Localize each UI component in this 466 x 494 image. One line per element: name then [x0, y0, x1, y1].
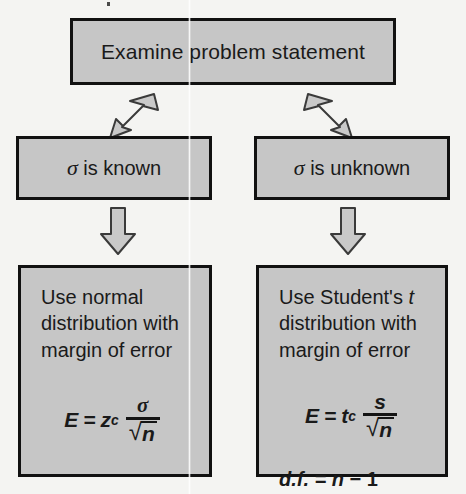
student-body-text: Use Student's t distribution with margin…: [259, 284, 445, 363]
student-line-1-plain: Use Student's: [279, 286, 408, 308]
sigma-unknown-text: σ is unknown: [294, 155, 410, 181]
sigma-symbol: σ: [67, 155, 78, 180]
normal-line-2: distribution with: [41, 310, 209, 336]
arrow-sigma-unknown-to-student-icon: [324, 206, 372, 258]
formula-t-denominator: √n: [363, 416, 397, 440]
sigma-unknown-label: is unknown: [305, 157, 411, 179]
student-line-2: distribution with: [279, 310, 445, 336]
formula-z-equals: =: [83, 408, 95, 432]
arrow-examine-to-sigma-known-icon: [96, 90, 162, 142]
formula-t-fraction: s √n: [363, 391, 397, 440]
square-root-icon: √n: [366, 417, 394, 440]
arrow-examine-to-sigma-unknown-icon: [300, 90, 366, 142]
formula-z-coefficient: z: [101, 408, 112, 432]
node-sigma-known: σ is known: [16, 136, 212, 200]
df-label: d.f.: [279, 468, 309, 490]
formula-z-numerator: σ: [134, 395, 151, 417]
formula-margin-of-error-t: E = tc s √n: [305, 391, 397, 440]
formula-t-equals: =: [324, 404, 336, 428]
flowchart-canvas: Examine problem statement σ is known σ i…: [0, 0, 466, 494]
formula-t-subscript: c: [348, 408, 356, 424]
scan-speck: [107, 2, 110, 6]
node-sigma-unknown: σ is unknown: [254, 136, 450, 200]
formula-z-fraction: σ √n: [126, 395, 160, 444]
normal-body-text: Use normal distribution with margin of e…: [21, 284, 209, 363]
df-equals: =: [315, 468, 327, 490]
formula-t-radicand: n: [378, 417, 394, 440]
df-minus: −: [350, 468, 362, 490]
student-line-3: margin of error: [279, 337, 445, 363]
formula-z-denominator: √n: [126, 420, 160, 444]
formula-t-numerator: s: [371, 391, 389, 413]
formula-t-lhs: E: [305, 404, 319, 428]
degrees-of-freedom-line: d.f. = n − 1: [259, 468, 445, 491]
normal-line-1: Use normal: [41, 284, 209, 310]
node-examine-problem-statement: Examine problem statement: [70, 18, 396, 85]
df-value: 1: [367, 468, 378, 490]
formula-z-subscript: c: [111, 412, 119, 428]
formula-t-coefficient: t: [341, 404, 348, 428]
student-line-1: Use Student's t: [279, 284, 445, 310]
examine-label: Examine problem statement: [101, 40, 365, 64]
formula-margin-of-error-z: E = zc σ √n: [64, 395, 160, 444]
square-root-icon: √n: [129, 421, 157, 444]
sigma-symbol: σ: [294, 155, 305, 180]
normal-line-3: margin of error: [41, 337, 209, 363]
sigma-known-label: is known: [78, 157, 161, 179]
df-variable: n: [332, 468, 344, 490]
arrow-sigma-known-to-normal-icon: [94, 206, 142, 258]
node-use-normal-distribution: Use normal distribution with margin of e…: [18, 265, 212, 477]
formula-z-lhs: E: [64, 408, 78, 432]
formula-z-radicand: n: [141, 421, 157, 444]
student-line-1-italic-t: t: [408, 286, 414, 308]
node-use-student-t-distribution: Use Student's t distribution with margin…: [256, 265, 448, 477]
sigma-known-text: σ is known: [67, 155, 161, 181]
